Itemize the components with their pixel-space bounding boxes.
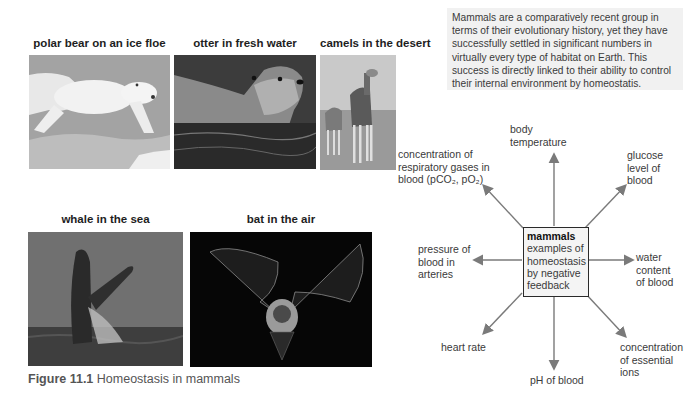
label-line: arteries xyxy=(418,268,471,281)
label-line: blood xyxy=(627,174,663,187)
label-body-temperature: body temperature xyxy=(510,123,567,148)
arrow-respiratory-gases xyxy=(484,186,523,228)
diagram-arrows xyxy=(0,0,700,399)
label-line: of essential xyxy=(620,354,683,367)
label-line: blood in xyxy=(418,256,471,269)
label-line: blood (pCO₂, pO₂) xyxy=(398,173,490,186)
label-line: concentration xyxy=(620,341,683,354)
label-line: heart rate xyxy=(441,341,486,354)
arrow-ions xyxy=(585,293,625,336)
center-box-body: examples of homeostasis by negative feed… xyxy=(527,242,585,291)
label-respiratory-gases: concentration of respiratory gases in bl… xyxy=(398,148,490,186)
label-glucose: glucose level of blood xyxy=(627,149,663,187)
center-box-title: mammals xyxy=(527,230,585,242)
label-line: level of xyxy=(627,162,663,175)
label-line: temperature xyxy=(510,136,567,149)
label-line: pH of blood xyxy=(530,374,584,387)
label-line: body xyxy=(510,123,567,136)
label-line: water xyxy=(636,251,673,264)
label-blood-pressure: pressure of blood in arteries xyxy=(418,243,471,281)
label-line: content xyxy=(636,264,673,277)
label-line: concentration of xyxy=(398,148,490,161)
arrow-heart-rate xyxy=(484,293,522,333)
label-ph: pH of blood xyxy=(530,374,584,387)
label-ions: concentration of essential ions xyxy=(620,341,683,379)
label-line: respiratory gases in xyxy=(398,161,490,174)
label-line: pressure of xyxy=(418,243,471,256)
label-water-content: water content of blood xyxy=(636,251,673,289)
label-line: ions xyxy=(620,366,683,379)
label-heart-rate: heart rate xyxy=(441,341,486,354)
center-box-mammals: mammals examples of homeostasis by negat… xyxy=(523,227,589,297)
label-line: glucose xyxy=(627,149,663,162)
label-line: of blood xyxy=(636,276,673,289)
arrow-glucose xyxy=(585,186,625,228)
